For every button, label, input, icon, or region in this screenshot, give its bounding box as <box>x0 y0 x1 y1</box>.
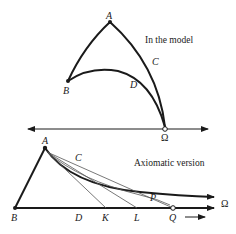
point-q <box>171 206 176 211</box>
label-bottom-b: B <box>11 213 17 223</box>
ideal-point-omega <box>163 127 168 132</box>
caption-bottom: Axiomatic version <box>134 159 204 169</box>
label-bottom-a: A <box>42 136 48 146</box>
limiting-parallel <box>45 148 214 197</box>
label-bottom-q: Q <box>169 213 176 223</box>
label-bottom-k: K <box>102 213 109 223</box>
point-b <box>13 206 17 210</box>
label-top-omega: Ω <box>161 133 168 143</box>
caption-top: In the model <box>145 36 193 46</box>
label-bottom-omega: Ω <box>221 199 228 209</box>
bottom-figure <box>13 146 214 217</box>
arc-bd-omega <box>68 70 165 127</box>
point-a <box>43 146 47 150</box>
label-top-a: A <box>106 11 112 21</box>
side-ab <box>15 148 45 208</box>
label-bottom-p: P <box>150 193 156 203</box>
label-top-d: D <box>130 80 137 90</box>
point-b <box>66 79 70 83</box>
segment-al <box>47 152 137 208</box>
hyperbolic-triangle-diagram: A B C D Ω In the model A B C D K L P Q Ω… <box>0 0 236 234</box>
label-top-c: C <box>152 57 159 67</box>
label-bottom-d: D <box>75 213 82 223</box>
label-top-b: B <box>63 86 69 96</box>
label-bottom-l: L <box>134 213 140 223</box>
diagram-canvas <box>0 0 236 234</box>
label-bottom-c: C <box>75 153 82 163</box>
